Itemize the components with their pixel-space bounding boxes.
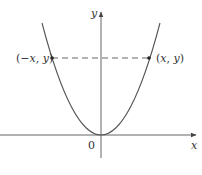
- origin-label: 0: [88, 139, 95, 152]
- point-right: [147, 56, 151, 60]
- x-axis-label: x: [191, 139, 198, 152]
- point-left-label: (−x, y): [16, 52, 53, 65]
- point-right-label: (x, y): [156, 52, 184, 65]
- even-function-diagram: (−x, y) (x, y) y x 0: [0, 0, 202, 175]
- y-axis-label: y: [90, 7, 98, 20]
